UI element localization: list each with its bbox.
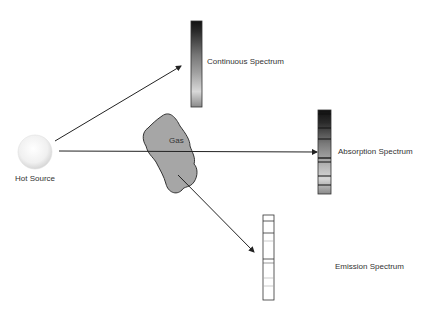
absorption-spectrum-bar: [318, 110, 331, 194]
hot-source-circle: [18, 135, 52, 169]
arrow-emission: [178, 175, 254, 252]
arrow-absorption: [59, 151, 317, 152]
emission-spectrum-bar: [263, 215, 274, 300]
hot-source-label: Hot Source: [15, 174, 55, 183]
continuous-spectrum-bar: [191, 21, 202, 107]
emission-spectrum-label: Emission Spectrum: [335, 262, 404, 271]
absorption-spectrum-label: Absorption Spectrum: [338, 147, 413, 156]
continuous-spectrum-label: Continuous Spectrum: [207, 57, 284, 66]
gas-cloud: [143, 114, 197, 193]
gas-label: Gas: [169, 136, 184, 145]
